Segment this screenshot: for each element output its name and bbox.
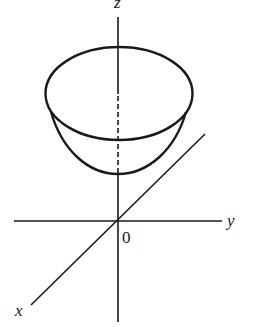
z-axis-label: z bbox=[113, 0, 121, 12]
paraboloid-rim-ellipse bbox=[46, 47, 193, 140]
y-axis-label: y bbox=[225, 211, 235, 230]
paraboloid-diagram: z y x 0 bbox=[0, 0, 256, 327]
origin-label: 0 bbox=[122, 228, 131, 247]
x-axis-label: x bbox=[14, 301, 23, 320]
